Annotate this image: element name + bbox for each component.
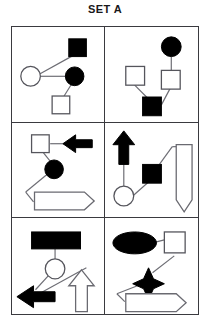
white-square-left [126, 66, 145, 85]
puzzle-cell-top-right [105, 27, 198, 123]
white-up-arrow [69, 270, 94, 312]
puzzle-grid [11, 26, 199, 315]
black-circle [65, 67, 84, 86]
analogy-puzzle-figure: SET A [0, 0, 210, 328]
white-right-banner [35, 192, 95, 210]
white-circle [45, 259, 65, 279]
black-circle [45, 160, 64, 179]
puzzle-cell-bottom-left [12, 218, 105, 314]
puzzle-cell-bottom-right [105, 218, 198, 314]
black-square [143, 164, 162, 183]
white-circle [114, 186, 134, 206]
white-right-banner [126, 294, 186, 312]
white-square [164, 232, 185, 253]
black-circle [161, 37, 181, 57]
white-down-banner [176, 144, 192, 211]
puzzle-cell-middle-left [12, 123, 105, 219]
puzzle-cell-top-left [12, 27, 105, 123]
white-square [52, 96, 70, 114]
black-up-arrow [113, 131, 135, 165]
page-title: SET A [0, 3, 210, 15]
black-left-arrow [63, 134, 92, 152]
white-circle [21, 66, 41, 86]
black-square [143, 97, 162, 116]
puzzle-cell-middle-right [105, 123, 198, 219]
white-square-right [161, 70, 180, 89]
black-ellipse [113, 232, 157, 254]
black-rectangle [32, 232, 81, 249]
black-square [69, 39, 87, 57]
white-square [32, 134, 50, 152]
